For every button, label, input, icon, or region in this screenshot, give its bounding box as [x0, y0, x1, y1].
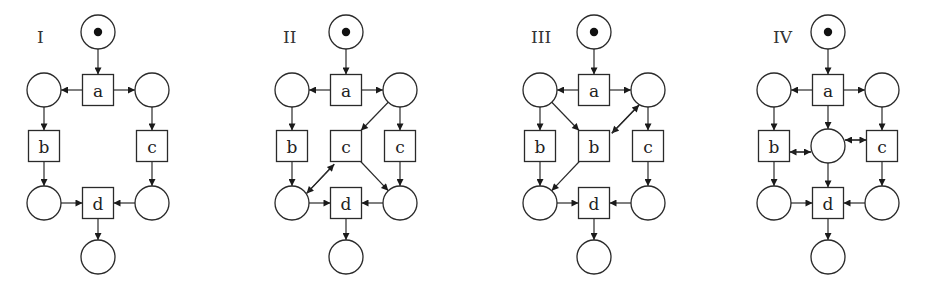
place-pR2	[383, 186, 417, 220]
place-pR2	[865, 186, 899, 220]
transition-b: b	[29, 131, 60, 162]
transition-c2: c	[331, 131, 362, 162]
transition-label: b	[287, 137, 298, 157]
place-pL1	[757, 73, 791, 107]
place-pR1	[383, 73, 417, 107]
place-pL1	[523, 73, 557, 107]
token-icon	[824, 28, 832, 36]
place-circle	[811, 129, 845, 163]
place-pEnd	[329, 240, 363, 274]
transition-b: b	[277, 131, 308, 162]
place-pM	[811, 129, 845, 163]
transition-d: d	[83, 188, 114, 219]
petri-net-IV: IVabcd	[757, 15, 899, 274]
place-pL2	[27, 186, 61, 220]
transition-label: d	[823, 194, 834, 214]
transition-label: b	[769, 137, 780, 157]
transition-label: d	[589, 194, 600, 214]
place-circle	[523, 73, 557, 107]
transition-label: b	[39, 137, 50, 157]
place-circle	[865, 73, 899, 107]
net-label: IV	[773, 27, 793, 47]
arc-pL1-to-b2	[552, 102, 579, 130]
token-icon	[94, 28, 102, 36]
place-circle	[865, 186, 899, 220]
place-pR1	[865, 73, 899, 107]
arc-pR1-to-c2	[361, 102, 388, 130]
place-circle	[135, 73, 169, 107]
transition-c: c	[633, 131, 664, 162]
token-icon	[590, 28, 598, 36]
transition-a: a	[83, 75, 114, 106]
transition-label: d	[341, 194, 352, 214]
place-circle	[383, 73, 417, 107]
place-circle	[811, 240, 845, 274]
arc-b2-to-pR1	[612, 105, 639, 133]
petri-net-III: IIIabbcd	[523, 15, 665, 274]
transition-label: d	[93, 194, 104, 214]
transition-label: b	[589, 137, 600, 157]
net-label: I	[37, 27, 44, 47]
place-circle	[329, 240, 363, 274]
place-pR2	[631, 186, 665, 220]
transition-a: a	[579, 75, 610, 106]
transition-c: c	[867, 131, 898, 162]
transition-label: a	[93, 81, 103, 101]
transition-a: a	[813, 75, 844, 106]
place-p0	[811, 15, 845, 49]
transition-label: c	[341, 137, 351, 157]
token-icon	[342, 28, 350, 36]
place-pR1	[135, 73, 169, 107]
place-circle	[383, 186, 417, 220]
transition-label: c	[395, 137, 405, 157]
transition-a: a	[331, 75, 362, 106]
transition-d: d	[331, 188, 362, 219]
transition-label: b	[535, 137, 546, 157]
place-circle	[631, 186, 665, 220]
transition-b: b	[759, 131, 790, 162]
place-pL2	[757, 186, 791, 220]
arc-b2-to-pL2	[552, 162, 580, 191]
transition-label: c	[877, 137, 887, 157]
place-p0	[329, 15, 363, 49]
place-pEnd	[577, 240, 611, 274]
transition-d: d	[579, 188, 610, 219]
place-p0	[81, 15, 115, 49]
place-circle	[135, 186, 169, 220]
place-pL2	[275, 186, 309, 220]
petri-net-I: Iabcd	[27, 15, 169, 274]
net-label: II	[283, 27, 296, 47]
place-pR2	[135, 186, 169, 220]
place-circle	[577, 240, 611, 274]
net-label: III	[531, 27, 551, 47]
place-pEnd	[811, 240, 845, 274]
transition-label: c	[147, 137, 157, 157]
transition-c: c	[137, 131, 168, 162]
transition-c: c	[385, 131, 416, 162]
transition-d: d	[813, 188, 844, 219]
transition-label: c	[643, 137, 653, 157]
place-pL1	[27, 73, 61, 107]
place-circle	[27, 186, 61, 220]
place-circle	[757, 73, 791, 107]
place-circle	[631, 73, 665, 107]
nets-layer: IabcdIIabccdIIIabbcdIVabcd	[27, 15, 899, 274]
place-circle	[757, 186, 791, 220]
place-circle	[27, 73, 61, 107]
transition-label: a	[589, 81, 599, 101]
transition-b2: b	[579, 131, 610, 162]
petri-net-figure: IabcdIIabccdIIIabbcdIVabcd	[0, 0, 930, 288]
transition-label: a	[823, 81, 833, 101]
transition-label: a	[341, 81, 351, 101]
place-circle	[275, 73, 309, 107]
place-pEnd	[81, 240, 115, 274]
place-circle	[275, 186, 309, 220]
petri-net-II: IIabccd	[275, 15, 417, 274]
arc-c2-to-pR2	[361, 162, 389, 191]
place-circle	[523, 186, 557, 220]
place-pL2	[523, 186, 557, 220]
place-p0	[577, 15, 611, 49]
place-pL1	[275, 73, 309, 107]
transition-b: b	[525, 131, 556, 162]
place-pR1	[631, 73, 665, 107]
